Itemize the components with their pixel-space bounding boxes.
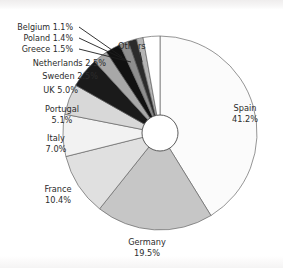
label-portugal-name: Portugal — [45, 104, 79, 114]
label-greece: Greece 1.5% — [22, 45, 74, 54]
label-france-name: France — [44, 184, 71, 194]
label-uk: UK 5.0% — [43, 85, 78, 95]
label-spain-pct: 41.2% — [232, 114, 258, 124]
label-portugal-pct: 5.1% — [52, 115, 73, 125]
pie-chart-svg: Belgium 1.1% Poland 1.4% Greece 1.5% Net… — [0, 0, 283, 268]
label-germany-pct: 19.5% — [134, 248, 160, 258]
pie-chart-figure: Belgium 1.1% Poland 1.4% Greece 1.5% Net… — [0, 0, 283, 268]
belgium-leader-line — [79, 27, 122, 57]
label-italy-pct: 7.0% — [46, 144, 67, 154]
label-belgium: Belgium 1.1% — [17, 23, 73, 32]
label-others: Others — [118, 41, 146, 51]
label-spain-name: Spain — [234, 103, 257, 113]
label-poland: Poland 1.4% — [23, 34, 73, 43]
label-france-pct: 10.4% — [45, 195, 71, 205]
label-germany-name: Germany — [128, 237, 166, 247]
donut-center-hole — [142, 115, 178, 151]
label-netherlands: Netherlands 2.5% — [33, 58, 107, 68]
label-italy-name: Italy — [47, 133, 65, 143]
label-sweden: Sweden 2.5% — [42, 71, 98, 81]
